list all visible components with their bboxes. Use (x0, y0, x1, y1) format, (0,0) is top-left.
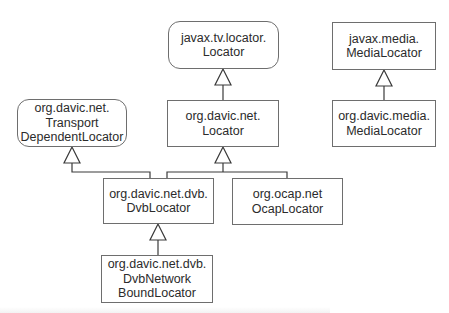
node-org-davic-net-dvb-dvb-locator: org.davic.net.dvb. DvbLocator (103, 178, 214, 224)
node-org-davic-net-transport-dependent-locator: org.davic.net. Transport DependentLocato… (17, 99, 127, 147)
node-label-line: javax.tv.locator. (181, 31, 266, 46)
node-label-line: org.davic.net. (185, 109, 260, 124)
node-label-line: org.davic.net. (34, 101, 109, 116)
node-label-line: DependentLocator (21, 130, 124, 145)
node-label-line: Locator (202, 124, 244, 139)
node-label-line: org.ocap.net (253, 187, 323, 202)
node-label-line: DvbLocator (127, 201, 191, 216)
node-org-davic-media-media-locator: org.davic.media. MediaLocator (332, 100, 436, 147)
node-org-davic-net-locator: org.davic.net. Locator (167, 100, 279, 147)
generalization-arrowhead-icon (150, 224, 166, 240)
node-javax-media-media-locator: javax.media. MediaLocator (332, 22, 436, 70)
node-label-line: javax.media. (349, 32, 419, 47)
node-label-line: org.davic.media. (338, 109, 430, 124)
node-label-line: DvbNetwork (123, 272, 191, 287)
generalization-arrowhead-icon (376, 70, 392, 86)
cropped-caption-strip (0, 307, 330, 313)
node-label-line: BoundLocator (118, 286, 196, 301)
node-label-line: OcapLocator (252, 202, 324, 217)
edge-dvb-to-transport-dependent (72, 163, 150, 178)
generalization-arrowhead-icon (64, 147, 80, 163)
node-javax-tv-locator-locator: javax.tv.locator. Locator (168, 21, 279, 69)
class-inheritance-diagram: javax.tv.locator. Locator org.davic.net.… (0, 0, 449, 313)
node-label-line: Transport (45, 116, 98, 131)
node-label-line: org.davic.net.dvb. (109, 187, 208, 202)
node-label-line: MediaLocator (346, 46, 422, 61)
node-label-line: Locator (203, 45, 245, 60)
generalization-arrowhead-icon (215, 147, 231, 163)
node-org-davic-net-dvb-dvb-network-bound-locator: org.davic.net.dvb. DvbNetwork BoundLocat… (101, 255, 213, 303)
node-label-line: MediaLocator (346, 124, 422, 139)
generalization-arrowhead-icon (215, 69, 231, 85)
node-org-ocap-net-ocap-locator: org.ocap.net OcapLocator (232, 178, 343, 225)
node-label-line: org.davic.net.dvb. (108, 257, 207, 272)
